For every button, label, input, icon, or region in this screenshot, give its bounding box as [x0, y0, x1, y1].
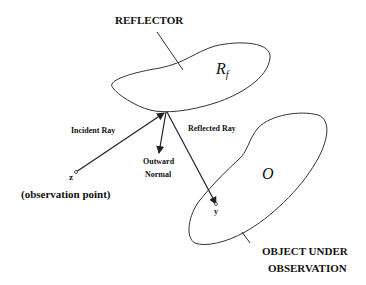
reflector-symbol-main: R — [216, 60, 226, 77]
object-symbol: O — [262, 165, 274, 183]
reflector-symbol-subscript: f — [226, 69, 229, 80]
incident-ray-label: Incident Ray — [71, 126, 115, 135]
normal-label: Normal — [145, 170, 171, 179]
outward-label: Outward — [143, 157, 174, 166]
object-leader-line — [242, 232, 250, 243]
z-label: z — [69, 172, 73, 182]
point-y — [215, 203, 218, 206]
diagram-graphics — [0, 0, 366, 285]
object-label-line1: OBJECT UNDER — [262, 245, 348, 257]
reflector-leader-line — [157, 32, 183, 70]
reflector-shape — [112, 43, 270, 112]
outward-normal-arrow — [159, 112, 166, 153]
observation-point-label: (observation point) — [21, 188, 111, 200]
y-label: y — [214, 207, 218, 216]
point-z — [75, 171, 78, 174]
reflector-label: REFLECTOR — [115, 14, 183, 26]
reflector-symbol: Rf — [216, 60, 229, 80]
object-label-line2: OBSERVATION — [268, 262, 347, 274]
reflected-ray-label: Reflected Ray — [188, 124, 236, 133]
reflection-diagram: REFLECTOR Rf Incident Ray Reflected Ray … — [0, 0, 366, 285]
